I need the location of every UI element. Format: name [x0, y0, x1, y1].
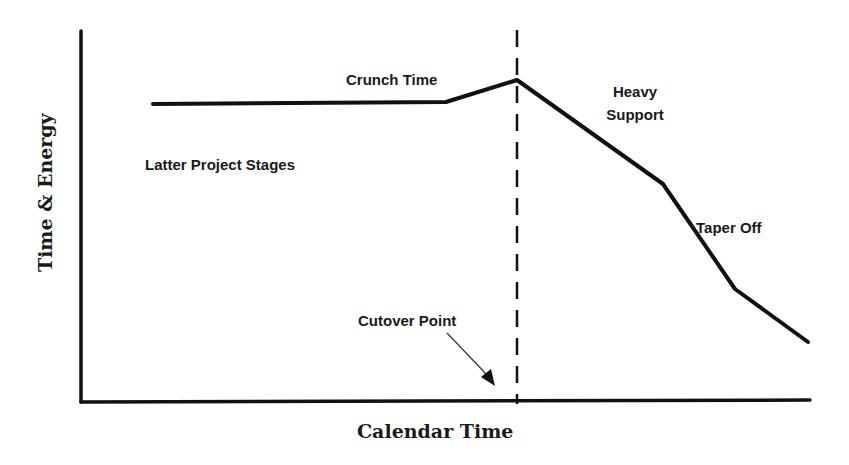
heavy-support-label: Heavy Support — [595, 82, 675, 124]
x-axis-label: Calendar Time — [357, 420, 513, 442]
crunch-time-label: Crunch Time — [346, 70, 437, 89]
cutover-point-label: Cutover Point — [358, 311, 456, 330]
taper-off-label: Taper Off — [696, 218, 762, 237]
latter-stages-label: Latter Project Stages — [145, 155, 295, 174]
cutover-arrow-shaft — [447, 333, 489, 377]
heavy-support-line1: Heavy — [595, 82, 675, 101]
y-axis-label: Time & Energy — [34, 142, 56, 272]
effort-curve — [153, 80, 808, 342]
x-axis — [81, 400, 810, 402]
heavy-support-line2: Support — [595, 105, 675, 124]
